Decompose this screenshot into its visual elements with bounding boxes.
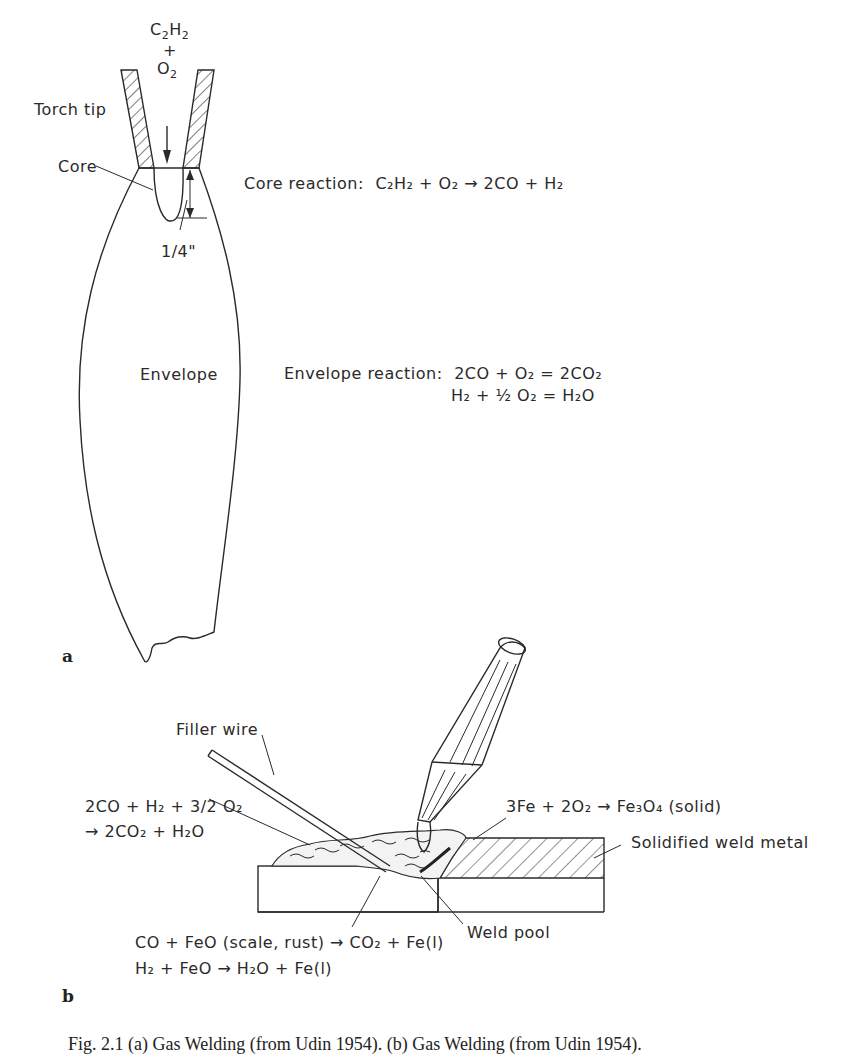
torch-tip-right-wall (183, 70, 214, 168)
core-reaction: Core reaction: C₂H₂ + O₂ → 2CO + H₂ (244, 174, 564, 193)
plus-sign: + (163, 41, 177, 60)
core-cone (154, 168, 183, 221)
envelope-reaction-line1: Envelope reaction: 2CO + O₂ = 2CO₂ (284, 364, 602, 383)
panel-b-label: b (62, 986, 74, 1006)
solidified-weld-metal (440, 838, 604, 878)
bottom-reaction-line2: H₂ + FeO → H₂O + Fe(l) (135, 959, 332, 978)
solidified-weld-metal-label: Solidified weld metal (631, 833, 809, 852)
oxide-reaction: 3Fe + 2O₂ → Fe₃O₄ (solid) (506, 797, 722, 816)
filler-wire-label: Filler wire (176, 720, 258, 739)
figure-caption: Fig. 2.1 (a) Gas Welding (from Udin 1954… (68, 1034, 642, 1055)
torch-tip-left-wall (121, 70, 154, 168)
envelope-label: Envelope (140, 365, 218, 384)
dimension-label: 1/4" (161, 242, 196, 261)
left-reaction-line2: → 2CO₂ + H₂O (85, 822, 204, 841)
panel-a: C2H2 + O2 Torch tip Core 1/4" Envelope C… (33, 20, 602, 666)
panel-b: Filler wire 2CO + H₂ + 3/2 O₂ → 2CO₂ + H… (62, 635, 809, 1006)
torch-tip-label: Torch tip (33, 100, 106, 119)
core-label: Core (58, 157, 97, 176)
bottom-reaction-line1: CO + FeO (scale, rust) → CO₂ + Fe(l) (135, 933, 444, 952)
panel-a-label: a (62, 646, 73, 666)
envelope-flame (79, 168, 240, 662)
oxygen-label: O2 (157, 59, 178, 81)
weld-pool (272, 830, 466, 879)
left-reaction-line1: 2CO + H₂ + 3/2 O₂ (85, 797, 243, 816)
acetylene-label: C2H2 (150, 20, 189, 42)
torch-nozzle (417, 635, 527, 852)
weld-pool-label: Weld pool (467, 923, 550, 942)
envelope-reaction-line2: H₂ + ½ O₂ = H₂O (451, 386, 595, 405)
